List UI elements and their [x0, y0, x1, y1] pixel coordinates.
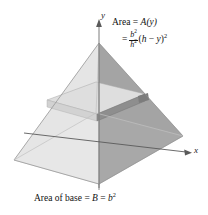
area-formula-line-2: = b2 h2 (h − y)2: [122, 31, 167, 49]
base-caption-equals: =: [98, 193, 108, 203]
base-caption-exponent: 2: [113, 191, 116, 198]
base-caption-prefix: Area of base =: [34, 193, 92, 203]
formula-equals-sign: =: [122, 35, 127, 45]
tail-minus: −: [146, 34, 156, 44]
b-squared-over-h-squared-fraction: b2 h2: [129, 31, 138, 49]
x-axis-arrowhead: [184, 150, 192, 156]
y-axis-label: y: [101, 11, 105, 20]
pyramid-illustration: [0, 0, 208, 215]
area-formula-annotation: Area = A(y) = b2 h2 (h − y)2: [112, 18, 167, 49]
area-formula-line-1: Area = A(y): [112, 18, 167, 28]
area-label: Area =: [112, 17, 141, 27]
denominator-exponent: 2: [134, 38, 137, 44]
tail-exponent: 2: [164, 32, 167, 39]
fraction-denominator: h2: [129, 41, 138, 50]
base-area-caption: Area of base = B = b2: [34, 194, 116, 204]
pyramid-volume-figure: y x Area = A(y) = b2 h2 (h − y)2 Area of…: [0, 0, 208, 215]
x-axis-label: x: [194, 146, 198, 155]
area-function: A(y): [141, 17, 157, 27]
numerator-exponent: 2: [134, 28, 137, 34]
formula-tail: (h − y)2: [139, 35, 168, 45]
